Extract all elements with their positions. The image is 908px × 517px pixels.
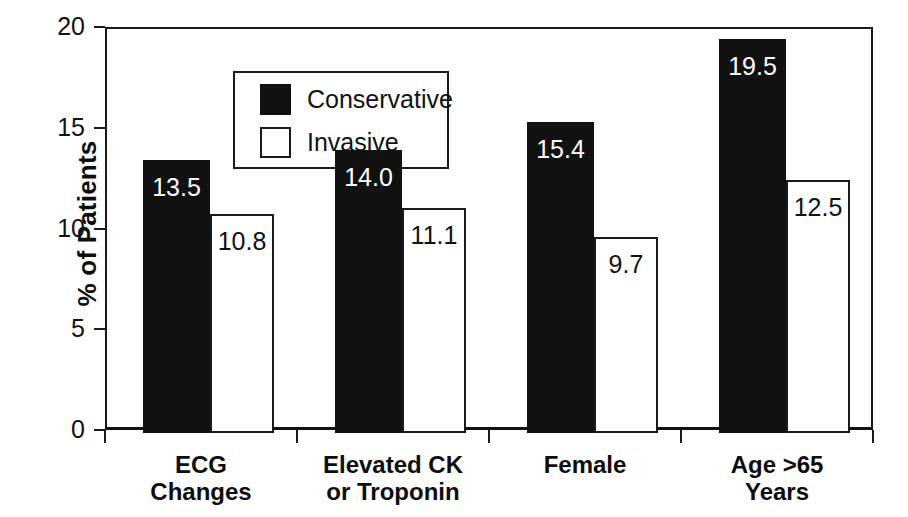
x-axis-category-label: Age >65Years — [681, 452, 873, 506]
x-axis-tick-mark — [296, 430, 298, 443]
x-axis-category-label: ECGChanges — [105, 452, 297, 506]
y-axis-tick-label: 0 — [15, 417, 85, 442]
x-axis-category-line1: Elevated CK — [323, 451, 463, 478]
x-axis-category-line2: Years — [681, 479, 873, 506]
filled-square-icon — [260, 84, 291, 115]
bar-value-label: 11.1 — [404, 223, 464, 248]
x-axis-category-line1: Female — [544, 451, 627, 478]
bar-invasive-elevated-ck-or-troponin: 11.1 — [402, 208, 466, 433]
bar-value-label: 9.7 — [596, 252, 656, 277]
y-axis-tick-label: 20 — [15, 14, 85, 39]
bar-value-label: 12.5 — [788, 195, 848, 220]
bar-value-label: 10.8 — [212, 229, 272, 254]
bar-value-label: 19.5 — [720, 54, 785, 79]
y-axis-tick-mark — [94, 26, 105, 28]
bar-value-label: 13.5 — [144, 175, 209, 200]
chart-figure: % of Patients 05101520 13.514.015.419.51… — [0, 0, 908, 517]
x-axis-tick-mark — [680, 430, 682, 443]
plot-area: 13.514.015.419.510.811.19.712.5 Conserva… — [105, 27, 873, 430]
y-axis-tick-label: 10 — [15, 216, 85, 241]
bar-value-label: 15.4 — [528, 137, 593, 162]
bar-conservative-age-65-years: 19.5 — [719, 39, 786, 433]
y-axis-tick-mark — [94, 127, 105, 129]
bar-invasive-age-65-years: 12.5 — [786, 180, 850, 433]
y-axis-tick-label: 15 — [15, 115, 85, 140]
x-axis-tick-mark — [872, 430, 874, 443]
bar-conservative-ecg-changes: 13.5 — [143, 160, 210, 433]
x-axis-tick-mark — [104, 430, 106, 443]
x-axis-category-label: Female — [489, 452, 681, 479]
bar-value-label: 14.0 — [336, 165, 401, 190]
x-axis-category-line2: or Troponin — [297, 479, 489, 506]
bar-conservative-female: 15.4 — [527, 122, 594, 433]
y-axis-tick-mark — [94, 328, 105, 330]
hollow-square-icon — [260, 127, 291, 158]
x-axis-tick-mark — [488, 430, 490, 443]
bar-invasive-female: 9.7 — [594, 237, 658, 433]
legend-label-conservative: Conservative — [307, 84, 453, 115]
y-axis-tick-mark — [94, 228, 105, 230]
legend-entry-conservative: Conservative — [235, 80, 447, 120]
x-axis-category-line1: Age >65 — [731, 451, 824, 478]
bar-invasive-ecg-changes: 10.8 — [210, 214, 274, 433]
x-axis-category-label: Elevated CKor Troponin — [297, 452, 489, 506]
bar-conservative-elevated-ck-or-troponin: 14.0 — [335, 150, 402, 433]
y-axis-tick-label: 5 — [15, 316, 85, 341]
x-axis-category-line2: Changes — [105, 479, 297, 506]
x-axis-category-line1: ECG — [175, 451, 227, 478]
